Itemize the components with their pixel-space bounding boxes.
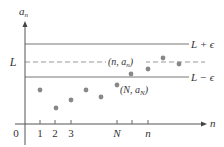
point-n [146,67,151,72]
tick-label-1: 1 [37,127,43,139]
point-3 [69,98,74,103]
point-N [115,83,120,88]
tick-label-3: 3 [68,127,74,139]
point-4 [84,88,89,93]
x-axis-label: n [210,117,216,129]
tick-label-2: 2 [52,127,58,139]
limit-label: L [9,55,17,69]
lower-band-label: L − ϵ [190,71,215,83]
upper-band-label: L + ϵ [190,38,215,50]
sequence-limit-diagram: 0 1 2 3 N n an n L L + ϵ L − ϵ (n, an) (… [0,0,224,147]
origin-label: 0 [13,127,19,139]
tick-label-n: n [145,127,151,139]
y-axis-label: an [19,5,29,19]
point-2 [54,106,59,111]
point-1 [38,88,43,93]
x-axis-arrow-icon [201,122,207,127]
point-9 [161,56,166,61]
point-n-label: (n, an) [108,56,134,69]
x-ticks [40,120,148,124]
point-7 [129,72,134,77]
tick-label-N: N [112,127,121,139]
point-10 [177,62,182,67]
point-N-label: (N, aN) [120,84,149,97]
y-axis-arrow-icon [23,21,28,27]
point-5 [99,95,104,100]
